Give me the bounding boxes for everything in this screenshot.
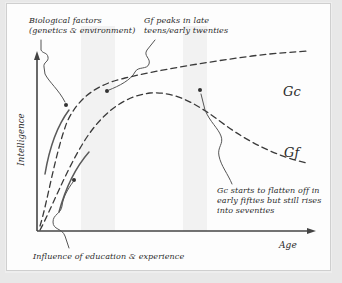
shaded-band-early-fifties — [183, 26, 207, 231]
curve-label-gc: Gc — [283, 84, 301, 101]
scan-margin-right — [332, 0, 342, 283]
annotation-gc-flatten: Gc starts to flatten off in early fiftie… — [217, 186, 321, 217]
leader-gf-peak — [109, 40, 155, 90]
leader-dot-biological — [64, 103, 68, 107]
scan-margin-bottom — [0, 273, 342, 283]
annotation-biological-factors: Biological factors (genetics & environme… — [29, 16, 135, 36]
annotation-education-experience: Influence of education & experience — [33, 252, 184, 262]
y-axis-label: Intelligence — [16, 106, 27, 172]
x-axis-label: Age — [279, 240, 297, 252]
scan-margin-left — [0, 0, 5, 283]
annotation-gf-peak: Gf peaks in late teens/early twenties — [144, 16, 228, 36]
leader-biological — [41, 40, 65, 102]
leader-dot-gc-flatten — [198, 88, 202, 92]
curve-label-gf: Gf — [284, 145, 299, 162]
screenshot-canvas: Biological factors (genetics & environme… — [0, 0, 342, 283]
emphasis-stroke-biological — [45, 110, 69, 174]
leader-education — [53, 182, 73, 248]
shaded-band-late-teens — [81, 26, 115, 231]
scan-margin-top — [0, 0, 342, 2]
figure-paper: Biological factors (genetics & environme… — [6, 3, 331, 271]
leader-dot-gf-peak — [105, 89, 109, 93]
intelligence-vs-age-chart — [7, 4, 331, 271]
x-axis-arrowhead — [307, 228, 316, 234]
y-axis-arrowhead — [34, 51, 40, 60]
leader-dot-education — [72, 178, 76, 182]
